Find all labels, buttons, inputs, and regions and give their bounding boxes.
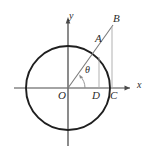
y-axis-label: y	[69, 11, 73, 21]
point-label-A: A	[95, 33, 102, 44]
y-axis	[66, 17, 71, 146]
x-axis-label: x	[137, 80, 141, 90]
point-label-O: O	[58, 90, 66, 101]
x-axis-arrow	[125, 86, 131, 91]
geometry-figure: y x O A B C D θ	[0, 0, 153, 156]
angle-label-theta: θ	[85, 65, 90, 75]
angle-arc-arrow	[79, 75, 83, 79]
point-label-C: C	[110, 90, 117, 101]
point-label-B: B	[113, 13, 120, 24]
point-label-D: D	[92, 90, 100, 101]
figure-canvas	[0, 0, 153, 156]
ray-O-to-B	[68, 25, 113, 88]
